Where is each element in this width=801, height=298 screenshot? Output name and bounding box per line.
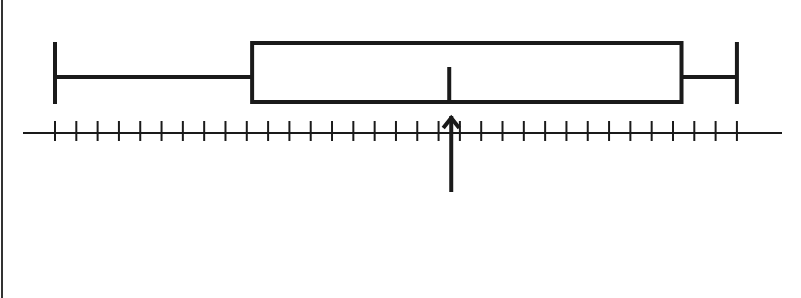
box-plot-chart [0, 0, 801, 298]
arrow-up-icon [443, 116, 459, 192]
chart-frame [0, 0, 801, 298]
whiskers [55, 42, 737, 104]
number-line-axis [23, 121, 782, 141]
interquartile-box [252, 43, 681, 102]
iqr-box [252, 43, 681, 102]
